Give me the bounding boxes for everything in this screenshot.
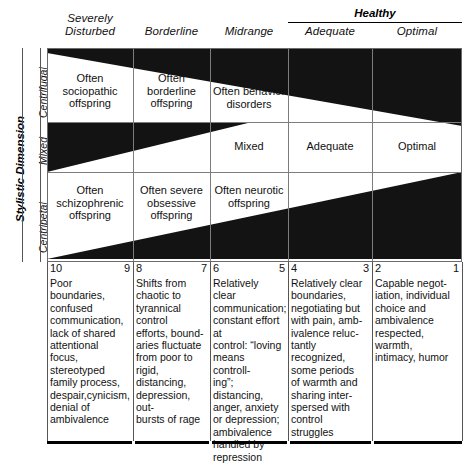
description-column-adequate: 4 3 Relatively clear boundaries, negotia… xyxy=(288,262,372,438)
description-baseline-2 xyxy=(135,441,209,444)
description-text: Shifts from chaotic to tyrannical contro… xyxy=(133,276,210,426)
scale-number-right: 1 xyxy=(453,262,459,274)
scale-number-left: 6 xyxy=(213,262,219,274)
scale-numbers-2-1: 2 1 xyxy=(372,262,462,276)
scale-numbers-10-9: 10 9 xyxy=(47,262,133,276)
scale-number-left: 4 xyxy=(291,262,297,274)
column-header-optimal: Optimal xyxy=(372,25,462,38)
description-column-optimal: 2 1 Capable negot- iation, individual ch… xyxy=(372,262,462,364)
description-text: Relatively clear communication; constant… xyxy=(210,276,288,463)
description-baseline-5 xyxy=(374,441,462,444)
scale-number-right: 9 xyxy=(124,262,130,274)
column-header-borderline: Borderline xyxy=(133,25,210,38)
matrix-cell-centrifugal-borderline: Often borderline offspring xyxy=(133,72,210,110)
matrix-cell-mixed-adequate: Adequate xyxy=(288,140,372,153)
matrix-cell-centripetal-borderline: Often severe obsessive offspring xyxy=(133,184,210,222)
description-divider-left-edge xyxy=(47,262,48,441)
description-divider-1 xyxy=(133,262,134,441)
axis-spine xyxy=(22,48,23,262)
column-header-adequate: Adequate xyxy=(288,25,372,38)
matrix-cell-mixed-midrange: Mixed xyxy=(210,140,288,153)
description-text: Capable negot- iation, individual choice… xyxy=(372,276,462,364)
description-text: Poor boundaries, confused communication,… xyxy=(47,276,133,426)
description-baseline-1 xyxy=(47,441,132,444)
matrix-column-divider-2 xyxy=(210,48,211,262)
scale-number-left: 10 xyxy=(50,262,62,274)
description-column-midrange: 6 5 Relatively clear communication; cons… xyxy=(210,262,288,463)
description-divider-4 xyxy=(372,262,373,441)
description-divider-2 xyxy=(210,262,211,441)
scale-numbers-6-5: 6 5 xyxy=(210,262,288,276)
matrix-cell-mixed-optimal: Optimal xyxy=(372,140,462,153)
scale-number-right: 5 xyxy=(279,262,285,274)
scale-numbers-4-3: 4 3 xyxy=(288,262,372,276)
description-text: Relatively clear boundaries, negotiating… xyxy=(288,276,372,438)
matrix-row-divider-1 xyxy=(47,122,462,123)
healthy-group-label: Healthy xyxy=(288,7,462,19)
axis-title-stylistic-dimension: Stylistic Dimension xyxy=(14,116,26,222)
description-column-severely-disturbed: 10 9 Poor boundaries, confused communica… xyxy=(47,262,133,426)
matrix-cell-centrifugal-severely-disturbed: Often sociopathic offspring xyxy=(47,72,133,110)
matrix-cell-centrifugal-midrange: Often behavior disorders xyxy=(210,85,288,110)
row-label-spine xyxy=(40,48,41,262)
description-baseline-3 xyxy=(212,441,287,444)
scale-number-left: 8 xyxy=(136,262,142,274)
description-divider-3 xyxy=(288,262,289,441)
scale-number-left: 2 xyxy=(375,262,381,274)
matrix-column-divider-3 xyxy=(288,48,289,262)
scale-numbers-8-7: 8 7 xyxy=(133,262,210,276)
matrix-column-divider-4 xyxy=(372,48,373,262)
matrix-cell-centripetal-severely-disturbed: Often schizophrenic offspring xyxy=(47,184,133,222)
scale-number-right: 7 xyxy=(201,262,207,274)
matrix-cell-centripetal-midrange: Often neurotic offspring xyxy=(210,184,288,209)
healthy-group-rule xyxy=(288,22,462,23)
competence-style-matrix: Often sociopathic offspring Often border… xyxy=(47,48,462,262)
column-header-midrange: Midrange xyxy=(210,25,288,38)
matrix-row-divider-2 xyxy=(47,172,462,173)
description-baseline-4 xyxy=(290,441,371,444)
column-header-severely-disturbed: Severely Disturbed xyxy=(47,12,133,38)
description-column-borderline: 8 7 Shifts from chaotic to tyrannical co… xyxy=(133,262,210,426)
figure-root: Severely Disturbed Borderline Midrange A… xyxy=(0,0,473,463)
scale-number-right: 3 xyxy=(363,262,369,274)
description-divider-right-edge xyxy=(462,262,463,441)
